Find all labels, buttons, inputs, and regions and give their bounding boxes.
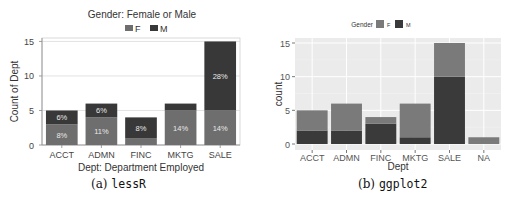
x-axis-title-a: Dept: Department Employed [78,162,204,173]
caption-a: (a) lessR [91,177,146,191]
x-tick-label: MKTG [168,150,194,160]
bar-segment-M [365,124,396,144]
x-tick-label: NA [478,153,491,163]
bar-label: 8% [136,124,147,133]
y-tick-label: 5 [29,106,34,116]
legend-swatch-F [376,20,384,28]
bar-segment-F [125,138,157,145]
bar-segment-M [434,77,465,144]
bar-label: 8% [56,131,67,140]
bar-segment-M [400,137,431,144]
bar-label: 28% [213,72,228,81]
bar-segment-F [434,43,465,77]
legend-swatch-M [395,20,403,28]
y-tick-label: 5 [285,106,290,116]
y-tick-label: 10 [24,71,34,81]
y-tick-label: 0 [285,140,290,150]
bar-segment-F [297,110,328,130]
legend-label-F: F [135,24,141,34]
legend-title-a: Gender: Female or Male [88,9,197,20]
y-tick-label: 15 [280,39,290,49]
bar-label: 14% [213,124,228,133]
bar-segment-M [165,104,197,111]
legend-label-M: M [160,24,168,34]
bar-segment-F [365,117,396,124]
x-tick-label: SALE [438,153,461,163]
bar-label: 6% [56,113,67,122]
bar-label: 6% [96,106,107,115]
y-tick-label: 15 [24,37,34,47]
x-tick-label: ADMN [88,150,115,160]
x-tick-label: FINC [131,150,152,160]
y-axis-title-b: count [273,82,284,107]
legend-label-M: M [406,22,411,28]
x-tick-label: ACCT [300,153,325,163]
legend-title-b: Gender [351,21,374,28]
caption-b: (b) ggplot2 [358,177,427,191]
y-tick-label: 0 [29,141,34,151]
bar-label: 11% [94,127,109,136]
caption-a-name: lessR [111,177,146,191]
bar-segment-F [400,104,431,138]
bar-segment-F [468,137,499,144]
bar-segment-M [331,131,362,144]
caption-b-name: ggplot2 [379,177,427,191]
legend-label-F: F [387,22,391,28]
legend-swatch-M [150,25,158,31]
caption-a-prefix: (a) [91,177,108,191]
figure: 0510158%6%ACCT11%6%ADMN8%FINC14%MKTG14%2… [0,0,513,205]
bar-segment-F [331,104,362,131]
x-axis-title-b: Dept [387,161,408,172]
x-tick-label: SALE [209,150,232,160]
x-tick-label: ACCT [50,150,75,160]
bar-label: 14% [173,124,188,133]
legend-swatch-F [125,25,133,31]
bar-segment-M [297,131,328,144]
y-tick-label: 10 [280,72,290,82]
y-axis-title-a: Count of Dept [9,60,20,122]
caption-b-prefix: (b) [358,177,375,191]
x-tick-label: ADMN [333,153,360,163]
